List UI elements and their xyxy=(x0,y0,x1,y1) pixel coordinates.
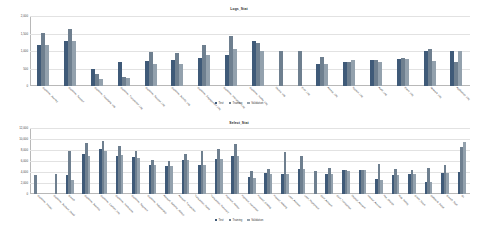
bar-group[interactable] xyxy=(55,128,58,194)
bar[interactable] xyxy=(378,62,382,86)
x-tick-slot: Account_Transaction xyxy=(171,194,187,216)
bar[interactable] xyxy=(170,166,173,194)
bar[interactable] xyxy=(137,158,140,194)
bar-group[interactable] xyxy=(91,16,103,86)
bar[interactable] xyxy=(206,55,210,86)
bar[interactable] xyxy=(153,64,157,86)
bar-group[interactable] xyxy=(248,128,256,194)
bar[interactable] xyxy=(432,61,436,86)
bar-group[interactable] xyxy=(375,128,383,194)
bar[interactable] xyxy=(413,174,416,194)
bar[interactable] xyxy=(187,160,190,194)
bar[interactable] xyxy=(72,41,76,86)
legend-item[interactable]: Validation xyxy=(247,101,263,105)
bar-group[interactable] xyxy=(149,128,157,194)
bar-group[interactable] xyxy=(182,128,190,194)
bar[interactable] xyxy=(286,174,289,194)
legend-item[interactable]: Training xyxy=(229,101,243,105)
bar-group[interactable] xyxy=(198,16,210,86)
bar-group[interactable] xyxy=(279,16,283,86)
bar[interactable] xyxy=(446,173,449,194)
bar-group[interactable] xyxy=(316,16,328,86)
y-tick-label: 4,000 xyxy=(21,170,28,174)
bar-group[interactable] xyxy=(145,16,157,86)
bar-group[interactable] xyxy=(264,128,272,194)
bar-group[interactable] xyxy=(370,16,382,86)
bar-group[interactable] xyxy=(425,128,433,194)
bar[interactable] xyxy=(233,49,237,86)
x-tick-slot: Branch xyxy=(61,194,77,216)
bar-group[interactable] xyxy=(225,16,237,86)
bar-group[interactable] xyxy=(165,128,173,194)
legend-item[interactable]: Test xyxy=(215,218,224,222)
bar[interactable] xyxy=(270,174,273,194)
bar[interactable] xyxy=(99,79,103,86)
bar[interactable] xyxy=(104,151,107,194)
x-tick-slot: Product_Holding xyxy=(266,194,282,216)
bar[interactable] xyxy=(405,59,409,86)
bar[interactable] xyxy=(88,156,91,195)
bar-group[interactable] xyxy=(424,16,436,86)
legend-item[interactable]: Test xyxy=(215,101,224,105)
bar[interactable] xyxy=(121,155,124,194)
bar-group[interactable] xyxy=(397,16,409,86)
bar-group[interactable] xyxy=(37,16,49,86)
bar[interactable] xyxy=(397,175,400,194)
bar[interactable] xyxy=(279,51,283,86)
bar-group[interactable] xyxy=(281,128,289,194)
bar-group[interactable] xyxy=(215,128,223,194)
bar-group[interactable] xyxy=(314,128,317,194)
bar[interactable] xyxy=(430,182,433,194)
bar-group[interactable] xyxy=(118,16,130,86)
bar[interactable] xyxy=(126,78,130,86)
bar[interactable] xyxy=(71,180,74,194)
bar-group[interactable] xyxy=(359,128,367,194)
bar-group[interactable] xyxy=(441,128,449,194)
bar-group[interactable] xyxy=(66,128,74,194)
bar-group[interactable] xyxy=(325,128,333,194)
bar-group[interactable] xyxy=(171,16,183,86)
bar-group[interactable] xyxy=(132,128,140,194)
bar-group[interactable] xyxy=(34,128,37,194)
bar-group[interactable] xyxy=(458,128,466,194)
bar-group[interactable] xyxy=(298,128,306,194)
bar[interactable] xyxy=(463,142,466,194)
bar-group[interactable] xyxy=(450,16,462,86)
bar-group[interactable] xyxy=(64,16,76,86)
bar-group[interactable] xyxy=(82,128,90,194)
bar[interactable] xyxy=(458,51,462,86)
bar[interactable] xyxy=(314,171,317,194)
bar-group[interactable] xyxy=(342,128,350,194)
bar[interactable] xyxy=(260,51,264,86)
bar[interactable] xyxy=(303,169,306,194)
chart-logs-stat: Logs_Stat 05001,0001,5002,000 Customer_J… xyxy=(0,0,478,114)
bar[interactable] xyxy=(380,180,383,194)
bar[interactable] xyxy=(331,174,334,194)
bar[interactable] xyxy=(237,156,240,195)
bar[interactable] xyxy=(351,60,355,86)
bar-group[interactable] xyxy=(116,128,124,194)
bar[interactable] xyxy=(154,165,157,194)
bar-group[interactable] xyxy=(298,16,302,86)
bar[interactable] xyxy=(203,165,206,194)
bar[interactable] xyxy=(347,171,350,194)
bar[interactable] xyxy=(220,159,223,194)
legend-item[interactable]: Training xyxy=(229,218,243,222)
bar[interactable] xyxy=(253,178,256,195)
bar-group[interactable] xyxy=(198,128,206,194)
bar[interactable] xyxy=(179,64,183,86)
bar-group[interactable] xyxy=(343,16,355,86)
bar[interactable] xyxy=(45,45,49,86)
bar-group[interactable] xyxy=(231,128,239,194)
bar-group[interactable] xyxy=(408,128,416,194)
bar-group[interactable] xyxy=(252,16,264,86)
x-tick-label: Network_Log xyxy=(429,87,441,99)
bar-group[interactable] xyxy=(392,128,400,194)
bar[interactable] xyxy=(364,170,367,194)
bar[interactable] xyxy=(298,51,302,86)
bar[interactable] xyxy=(34,175,37,194)
legend-item[interactable]: Validation xyxy=(247,218,263,222)
bar-group[interactable] xyxy=(99,128,107,194)
bar[interactable] xyxy=(324,64,328,86)
bar[interactable] xyxy=(55,174,58,194)
